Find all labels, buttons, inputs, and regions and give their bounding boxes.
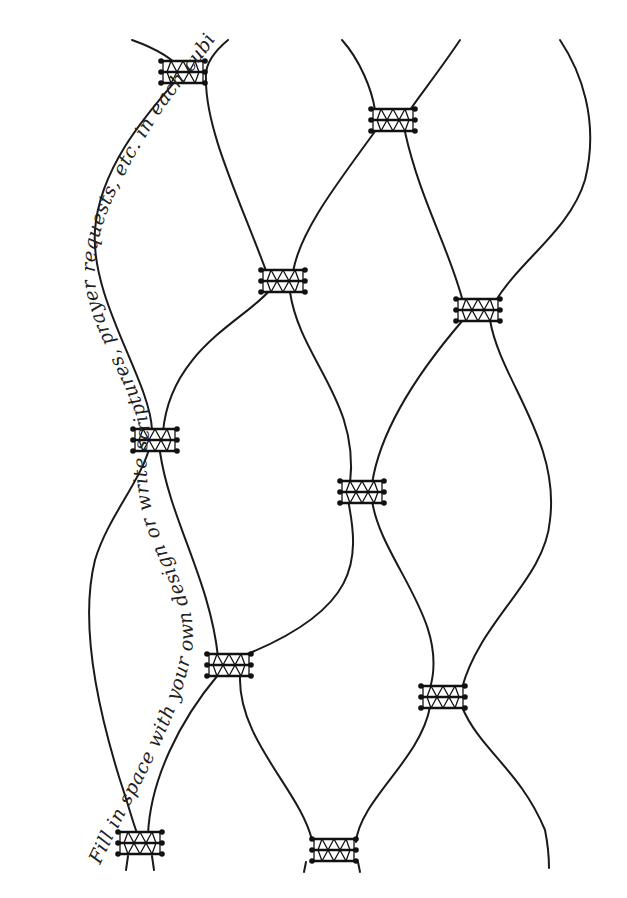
net-line — [293, 130, 376, 272]
knot-band — [258, 267, 308, 295]
net-line — [372, 320, 463, 484]
net-line — [462, 320, 551, 688]
knot-band — [418, 683, 468, 711]
net-line — [462, 707, 549, 868]
net-line — [126, 856, 128, 870]
net-line — [410, 40, 460, 110]
knot-band — [368, 106, 418, 134]
net-line — [206, 40, 268, 276]
net-line — [290, 292, 351, 484]
knot-band — [309, 836, 359, 864]
net-line — [304, 862, 306, 872]
net-line — [240, 500, 353, 657]
knot-band — [453, 296, 503, 324]
net-line — [495, 40, 590, 302]
net-line — [240, 676, 312, 840]
knot-band — [115, 829, 165, 857]
net-line — [358, 862, 360, 872]
instruction-text-path: Fill in space with your own design or wr… — [0, 0, 219, 868]
knot-band — [337, 478, 387, 506]
knot-band — [204, 651, 254, 679]
instruction-text: Fill in space with your own design or wr… — [0, 0, 219, 868]
net-line — [356, 707, 430, 842]
net-line — [372, 500, 434, 688]
net-line — [405, 132, 463, 302]
net-line — [163, 290, 270, 432]
net-line — [152, 856, 154, 870]
net-drawing: Fill in space with your own design or wr… — [0, 0, 627, 898]
net-line — [342, 40, 375, 110]
